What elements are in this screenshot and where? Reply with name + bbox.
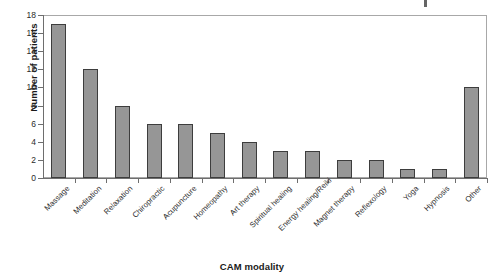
bar [210, 133, 225, 178]
y-tick-label: 10 [8, 83, 36, 91]
y-tick-label: 14 [8, 47, 36, 55]
bar-chart: Number of patients 024681012141618 Massa… [0, 0, 504, 278]
x-tick-mark [138, 179, 139, 183]
y-tick-label: 12 [8, 65, 36, 73]
y-tick-label: 6 [8, 120, 36, 128]
y-tick-label: 4 [8, 138, 36, 146]
y-tick-mark [38, 124, 43, 125]
x-tick-mark [233, 179, 234, 183]
x-tick-mark [170, 179, 171, 183]
y-tick-mark [38, 160, 43, 161]
bar [242, 142, 257, 178]
bar [369, 160, 384, 178]
y-tick-label: 16 [8, 29, 36, 37]
y-tick-mark [38, 15, 43, 16]
y-tick-mark [38, 51, 43, 52]
x-tick-mark [75, 179, 76, 183]
y-tick-label: 0 [8, 174, 36, 182]
y-tick-mark [38, 106, 43, 107]
x-tick-mark [455, 179, 456, 183]
y-tick-mark [38, 69, 43, 70]
y-axis-line [43, 15, 44, 179]
y-tick-mark [38, 178, 43, 179]
cropped-title-artifact [424, 0, 427, 7]
y-tick-label: 18 [8, 11, 36, 19]
plot-area [43, 15, 487, 178]
bar [147, 124, 162, 178]
y-tick-label: 2 [8, 156, 36, 164]
bar [337, 160, 352, 178]
bar [83, 69, 98, 178]
y-tick-label: 8 [8, 102, 36, 110]
x-tick-mark [424, 179, 425, 183]
bar [400, 169, 415, 178]
bar [432, 169, 447, 178]
x-axis-title: CAM modality [0, 261, 504, 272]
x-tick-mark [487, 179, 488, 183]
bar [178, 124, 193, 178]
y-tick-mark [38, 142, 43, 143]
bar [305, 151, 320, 178]
x-tick-mark [360, 179, 361, 183]
bar [464, 87, 479, 178]
bar [51, 24, 66, 178]
x-tick-mark [297, 179, 298, 183]
x-tick-mark [265, 179, 266, 183]
x-tick-mark [392, 179, 393, 183]
y-tick-mark [38, 33, 43, 34]
x-tick-mark [202, 179, 203, 183]
bar [273, 151, 288, 178]
x-tick-mark [106, 179, 107, 183]
y-tick-mark [38, 87, 43, 88]
bar [115, 106, 130, 178]
